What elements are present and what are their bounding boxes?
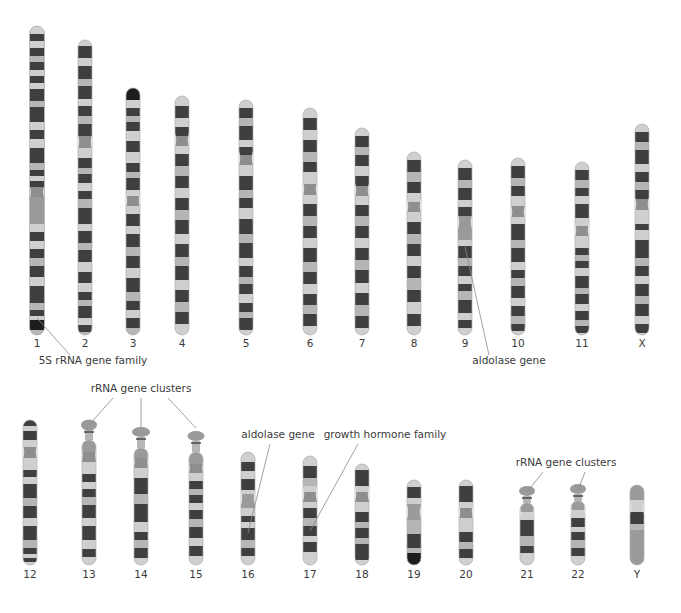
chromosome-8[interactable]: 8: [407, 152, 421, 349]
band-5-12: [239, 219, 253, 234]
chromosome-3[interactable]: 3: [126, 88, 140, 349]
band-9-14: [458, 300, 472, 313]
band-11-3: [575, 188, 589, 196]
band-6-15: [303, 272, 317, 284]
band-X-16: [635, 284, 649, 296]
band-1-6: [30, 70, 45, 76]
band-1-15: [30, 148, 45, 163]
chromosome-13[interactable]: 13: [81, 420, 97, 581]
band-4-10: [175, 198, 189, 210]
chromosome-label-21: 21: [520, 568, 533, 580]
chromosome-7[interactable]: 7: [355, 128, 369, 349]
band-1-33: [30, 320, 45, 330]
chromosome-2[interactable]: 2: [78, 40, 92, 349]
band-12-10: [23, 506, 37, 518]
band-X-6: [635, 182, 649, 190]
band-18-5: [355, 512, 369, 522]
band-12-11: [23, 518, 37, 526]
band-15-5: [189, 495, 203, 503]
band-17-1: [303, 466, 317, 478]
band-group: [126, 88, 140, 335]
chromosome-label-18: 18: [355, 568, 368, 580]
band-16-3: [241, 479, 255, 490]
band-6-6: [303, 172, 317, 184]
band-3-23: [126, 310, 140, 318]
band-2-17: [78, 199, 92, 208]
band-6-8: [303, 195, 317, 204]
chromosome-label-11: 11: [575, 337, 588, 349]
band-4-20: [175, 312, 189, 324]
band-7-13: [355, 260, 369, 270]
chromosome-5[interactable]: 5: [239, 100, 253, 349]
band-1-29: [30, 286, 45, 303]
band-15-11: [189, 546, 203, 556]
band-17-3: [303, 486, 317, 492]
band-X-14: [635, 266, 649, 276]
band-20-3: [459, 508, 473, 518]
chromosome-label-2: 2: [82, 337, 89, 349]
band-9-13: [458, 291, 472, 300]
band-14-6: [134, 522, 148, 532]
chromosome-1[interactable]: 1: [30, 26, 45, 349]
band-11-13: [575, 276, 589, 288]
band-11-12: [575, 268, 589, 276]
band-15-4: [189, 489, 203, 495]
band-14-4: [134, 494, 148, 504]
band-2-8: [78, 116, 92, 124]
chromosome-17[interactable]: 17: [303, 456, 317, 580]
band-8-7: [407, 222, 421, 234]
chromosome-16[interactable]: 16: [241, 452, 255, 580]
band-14-7: [134, 532, 148, 540]
band-2-27: [78, 300, 92, 306]
chromosome-10[interactable]: 10: [511, 158, 525, 349]
band-18-7: [355, 528, 369, 538]
band-9-1: [458, 168, 472, 180]
band-1-8: [30, 83, 45, 89]
band-2-4: [78, 79, 92, 86]
band-14-1: [134, 458, 148, 468]
band-10-1: [511, 166, 525, 178]
band-19-1: [407, 487, 421, 498]
band-8-11: [407, 266, 421, 278]
band-6-18: [303, 305, 317, 314]
band-5-8: [239, 176, 253, 190]
chromosome-11[interactable]: 11: [575, 162, 589, 349]
band-13-6: [82, 497, 96, 505]
chromosome-4[interactable]: 4: [175, 96, 189, 349]
band-21-2: [520, 520, 534, 536]
band-X-5: [635, 172, 649, 182]
band-15-1: [189, 464, 203, 473]
band-1-3: [30, 48, 45, 56]
band-group: [575, 162, 589, 335]
band-10-11: [511, 270, 525, 278]
chromosome-18[interactable]: 18: [355, 464, 369, 580]
chromosome-label-19: 19: [407, 568, 420, 580]
band-3-4: [126, 122, 140, 131]
band-10-16: [511, 316, 525, 324]
chromosome-label-4: 4: [179, 337, 186, 349]
band-X-7: [635, 190, 649, 199]
satellite-body: [188, 431, 205, 441]
chromosome-9[interactable]: 9: [458, 160, 472, 349]
band-X-13: [635, 258, 649, 266]
chromosome-label-7: 7: [359, 337, 366, 349]
chromosome-6[interactable]: 6: [303, 108, 317, 349]
band-17-10: [303, 542, 317, 552]
chromosome-label-22: 22: [571, 568, 584, 580]
band-12-9: [23, 498, 37, 506]
band-18-2: [355, 486, 369, 492]
band-12-12: [23, 526, 37, 540]
band-X-8: [635, 199, 649, 210]
chromosome-X[interactable]: X: [635, 124, 649, 349]
band-X-19: [635, 316, 649, 324]
band-3-17: [126, 247, 140, 256]
band-22-6: [571, 548, 585, 556]
band-11-9: [575, 248, 589, 255]
chromosome-label-8: 8: [411, 337, 418, 349]
band-11-16: [575, 304, 589, 311]
chromosome-12[interactable]: 12: [23, 420, 37, 580]
band-5-22: [239, 318, 253, 330]
band-4-7: [175, 166, 189, 176]
band-7-9: [355, 216, 369, 226]
band-7-12: [355, 248, 369, 260]
